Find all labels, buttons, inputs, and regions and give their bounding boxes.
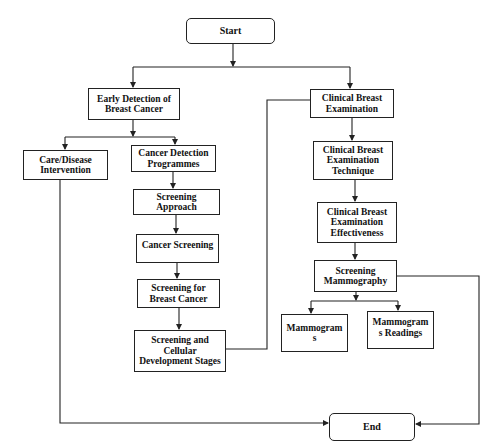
end-label: End [363,422,381,433]
screening-cellular-label: Screening and Cellular Development Stage… [139,335,221,367]
screening-approach-label: Screening Approach [156,192,196,213]
mammogram-readings-label: Mammogram s Readings [373,317,429,338]
start-node: Start [186,18,275,44]
screening-mammography-label: Screening Mammography [324,266,387,287]
mammograms-node: Mammogram s [281,314,348,352]
exam-effectiveness-node: Clinical Breast Examination Effectivenes… [317,202,397,243]
screening-breast-cancer-node: Screening for Breast Cancer [137,279,220,308]
start-label: Start [220,26,242,37]
care-intervention-label: Care/Disease Intervention [39,155,92,176]
cancer-screening-label: Cancer Screening [142,240,214,251]
screening-mammography-node: Screening Mammography [314,260,397,292]
clinical-exam-node: Clinical Breast Examination [310,89,394,118]
exam-technique-label: Clinical Breast Examination Technique [323,145,383,177]
cancer-detection-programmes-node: Cancer Detection Programmes [131,145,216,172]
edge-cellular-to-clinical [226,100,310,349]
early-detection-node: Early Detection of Breast Cancer [88,88,180,120]
exam-technique-node: Clinical Breast Examination Technique [313,141,393,180]
exam-effectiveness-label: Clinical Breast Examination Effectivenes… [327,207,387,239]
flowchart-connectors [0,0,498,448]
flowchart-canvas: Start Early Detection of Breast Cancer C… [0,0,498,448]
clinical-exam-label: Clinical Breast Examination [322,93,382,114]
screening-breast-cancer-label: Screening for Breast Cancer [149,283,207,304]
cancer-screening-node: Cancer Screening [136,234,219,263]
early-detection-label: Early Detection of Breast Cancer [97,94,171,115]
cancer-detection-programmes-label: Cancer Detection Programmes [138,148,208,169]
screening-cellular-node: Screening and Cellular Development Stage… [134,330,226,372]
end-node: End [329,413,415,441]
edge-mammography-to-end [397,276,479,424]
mammograms-label: Mammogram s [287,323,343,344]
care-intervention-node: Care/Disease Intervention [23,150,108,180]
screening-approach-node: Screening Approach [133,189,220,215]
mammogram-readings-node: Mammogram s Readings [367,311,434,349]
